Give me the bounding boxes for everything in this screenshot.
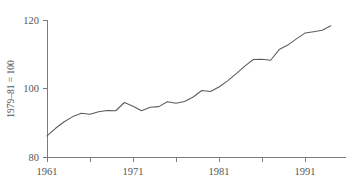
chart-plot-area: 120 100 80 1979–81 = 100 1961 1971 1981 … xyxy=(0,0,353,183)
x-tick-label-1971: 1971 xyxy=(123,166,144,177)
y-axis-title: 1979–81 = 100 xyxy=(6,60,16,118)
x-tick-label-1981: 1981 xyxy=(209,166,230,177)
y-tick-label-100: 100 xyxy=(23,83,39,94)
x-tick-label-1991: 1991 xyxy=(295,166,316,177)
y-tick-label-120: 120 xyxy=(23,15,39,26)
line-chart: 120 100 80 1979–81 = 100 1961 1971 1981 … xyxy=(0,0,353,183)
data-series-line xyxy=(47,26,331,136)
x-tick-label-1961: 1961 xyxy=(37,166,58,177)
y-tick-label-80: 80 xyxy=(29,152,40,163)
